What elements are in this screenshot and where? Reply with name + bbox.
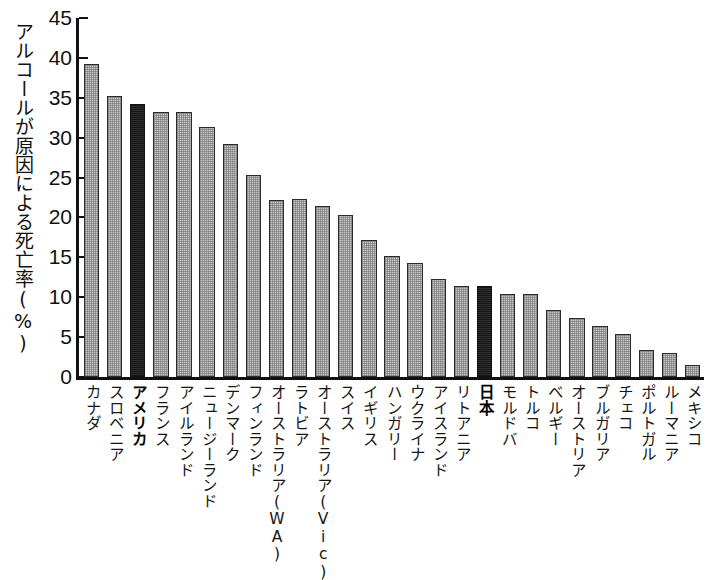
bar [153, 112, 168, 377]
bar [662, 353, 677, 377]
bar [199, 127, 214, 377]
bar [407, 263, 422, 377]
bar [615, 334, 630, 377]
x-axis-category-label: イギリス [361, 384, 377, 446]
y-axis-tick-label: 25 [38, 167, 72, 188]
bar [292, 199, 307, 377]
x-axis-category-label: アイスランド [430, 384, 446, 477]
x-axis-category-label: スロベニア [107, 384, 123, 462]
x-axis-category-label: カナダ [84, 384, 100, 431]
x-axis-category-label: チェコ [615, 384, 631, 431]
x-axis-category-label: フィンランド [245, 384, 261, 477]
bar [246, 175, 261, 377]
x-axis-category-label: モルドバ [500, 384, 516, 446]
bar [176, 112, 191, 377]
y-axis-tick-label: 10 [38, 286, 72, 307]
y-axis-tick-label: 45 [38, 7, 72, 28]
x-axis-category-label: デンマーク [222, 384, 238, 462]
x-axis-category-label: オーストラリア(Vic) [315, 384, 331, 580]
x-axis-category-label: ポルトガル [638, 384, 654, 462]
bar [84, 64, 99, 377]
x-axis-category-label: メキシコ [684, 384, 700, 446]
bar [569, 318, 584, 377]
x-axis-category-label: ブルガリア [592, 384, 608, 462]
y-axis-tick-label: 5 [38, 326, 72, 347]
x-axis-category-label: アイルランド [176, 384, 192, 477]
x-axis-category-label: フランス [153, 384, 169, 446]
y-axis-tick-label: 40 [38, 47, 72, 68]
bar [269, 200, 284, 377]
y-axis-tick-label: 35 [38, 87, 72, 108]
x-axis-category-label: ウクライナ [407, 384, 423, 462]
x-axis-category-label: アメリカ [130, 384, 146, 446]
bar [523, 294, 538, 377]
bar [592, 326, 607, 377]
y-axis-tick-label: 20 [38, 206, 72, 227]
x-axis-category-label: オーストラリア(WA) [268, 384, 284, 563]
y-axis-line [76, 18, 79, 380]
x-axis-category-label: オーストリア [569, 384, 585, 477]
x-axis-line [76, 377, 704, 380]
x-axis-category-label: トルコ [523, 384, 539, 431]
bar [384, 256, 399, 377]
x-axis-category-labels: カナダスロベニアアメリカフランスアイルランドニュージーランドデンマークフィンラン… [80, 384, 704, 530]
bar [477, 286, 492, 377]
bar [685, 365, 700, 377]
bar [431, 279, 446, 377]
bar [361, 240, 376, 377]
bar [546, 310, 561, 377]
x-axis-category-label: ラトビア [292, 384, 308, 446]
x-axis-category-label: ルーマニア [661, 384, 677, 462]
y-axis-title: アルコールが原因による死亡率(%) [2, 22, 32, 382]
x-axis-category-label: 日本 [476, 384, 492, 415]
y-axis-tick-label: 15 [38, 246, 72, 267]
figure-caption [0, 522, 712, 532]
bar [500, 294, 515, 377]
y-axis-tick-label: 30 [38, 127, 72, 148]
x-axis-category-label: ニュージーランド [199, 384, 215, 508]
bar [315, 206, 330, 377]
x-axis-category-label: スイス [338, 384, 354, 431]
y-axis-tick-label: 0 [38, 366, 72, 387]
bar-series [80, 18, 704, 377]
x-axis-category-label: ハンガリー [384, 384, 400, 462]
bar [338, 215, 353, 377]
x-axis-category-label: ベルギー [546, 384, 562, 446]
bar [130, 104, 145, 377]
bar [107, 96, 122, 377]
x-axis-category-label: リトアニア [453, 384, 469, 462]
bar [454, 286, 469, 377]
bar [223, 144, 238, 377]
bar [639, 350, 654, 377]
